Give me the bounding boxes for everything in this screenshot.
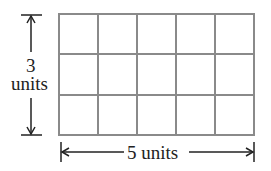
grid	[59, 14, 254, 135]
height-unit-label: units	[11, 74, 48, 93]
width-label: 5 units	[127, 143, 178, 162]
